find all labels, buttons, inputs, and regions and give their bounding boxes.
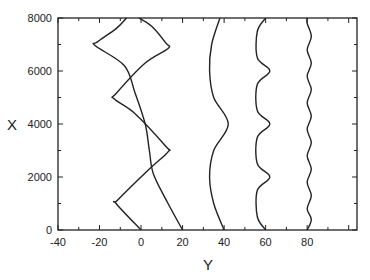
y-tick-label: 6000 [28, 65, 52, 77]
plot-curves [93, 18, 311, 230]
x-tick-label: 40 [218, 236, 230, 248]
x-tick-label: 80 [301, 236, 313, 248]
curve-zigzag-1 [112, 18, 170, 230]
y-tick-label: 2000 [28, 171, 52, 183]
plot-frame [58, 18, 357, 230]
x-axis: -40-20020406080 [50, 18, 349, 248]
y-tick-label: 4000 [28, 118, 52, 130]
chart: -40-20020406080 02000400060008000 Y X [0, 0, 370, 280]
x-tick-label: 20 [176, 236, 188, 248]
y-tick-label: 0 [46, 224, 52, 236]
x-tick-label: 0 [138, 236, 144, 248]
x-tick-label: -40 [50, 236, 66, 248]
curve-arc-short [307, 18, 311, 230]
x-tick-label: 60 [260, 236, 272, 248]
curve-arc-long [209, 18, 228, 230]
curve-arc-medium [256, 18, 270, 230]
x-tick-label: -20 [92, 236, 108, 248]
y-tick-label: 8000 [28, 12, 52, 24]
y-axis-label: X [7, 116, 17, 133]
x-axis-label: Y [203, 256, 213, 273]
curve-zigzag-2 [93, 18, 182, 230]
